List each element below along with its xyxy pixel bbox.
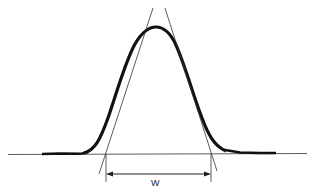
arrow-head-left [106,172,113,177]
right-tail [225,150,276,153]
right-tangent-line [165,8,217,171]
peak-diagram [0,0,313,195]
left-tangent-line [99,8,153,174]
width-label: W [151,178,160,188]
peak-curve [84,27,226,153]
arrow-head-right [204,172,211,177]
left-tail [42,152,88,154]
